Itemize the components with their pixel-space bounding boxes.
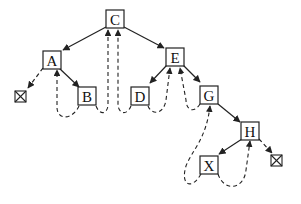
thread-edges [57, 30, 250, 186]
edge-E-D [150, 65, 167, 83]
thread-D-to-C [118, 30, 131, 113]
node-C-label: C [110, 12, 120, 28]
node-E-label: E [170, 50, 179, 66]
null-pointer-edges [28, 68, 272, 153]
node-H: H [241, 122, 259, 140]
edge-A-null [28, 68, 43, 88]
node-B: B [78, 87, 96, 105]
thread-G-to-E [180, 68, 200, 110]
thread-D-to-E [148, 68, 170, 112]
edge-A-B [59, 68, 79, 87]
node-H-label: H [245, 124, 256, 140]
edge-E-G [183, 65, 200, 82]
node-A: A [43, 51, 61, 69]
edge-C-A [63, 27, 106, 50]
node-C: C [106, 10, 124, 28]
null-marker-icon [15, 91, 26, 102]
node-D: D [131, 87, 149, 105]
threaded-binary-tree-diagram: C A E B D G H X [0, 0, 301, 204]
node-G: G [200, 86, 218, 104]
node-E: E [166, 48, 184, 66]
null-marker-icon [271, 155, 282, 166]
thread-X-to-H [218, 141, 250, 186]
edge-C-E [124, 27, 164, 48]
edge-G-H [218, 104, 240, 122]
node-X-label: X [204, 158, 215, 174]
edge-H-null [259, 139, 272, 153]
node-A-label: A [47, 53, 58, 69]
node-G-label: G [204, 88, 215, 104]
thread-B-to-C [96, 30, 108, 113]
node-B-label: B [82, 89, 92, 105]
node-X: X [200, 156, 218, 174]
node-D-label: D [135, 89, 146, 105]
edge-H-X [219, 139, 242, 154]
